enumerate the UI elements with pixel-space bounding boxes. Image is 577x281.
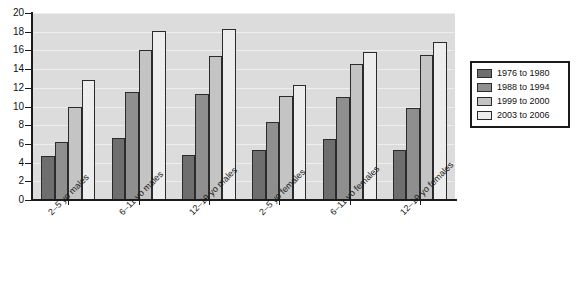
y-axis-tick	[25, 13, 32, 14]
bar	[182, 155, 196, 200]
y-axis-tick-label: 8	[0, 120, 24, 130]
bar	[406, 108, 420, 200]
y-axis-tick	[25, 107, 32, 108]
x-axis-tick	[279, 199, 280, 205]
y-axis-tick	[25, 69, 32, 70]
bars-layer	[33, 13, 455, 200]
legend: 1976 to 1980 1988 to 1994 1999 to 2000 2…	[470, 61, 570, 128]
legend-label-2003-to-2006: 2003 to 2006	[497, 111, 550, 120]
y-axis-tick-label: 6	[0, 139, 24, 149]
bar	[112, 138, 126, 200]
bar	[41, 156, 55, 200]
x-axis-tick	[420, 199, 421, 205]
y-axis-tick-label: 12	[0, 83, 24, 93]
y-axis-tick	[25, 144, 32, 145]
y-axis-tick	[25, 50, 32, 51]
bar	[336, 97, 350, 200]
y-axis-tick-label: 18	[0, 27, 24, 37]
legend-swatch-1976-to-1980	[477, 69, 492, 78]
y-axis-tick-label: 2	[0, 176, 24, 186]
y-axis-tick-label: 14	[0, 64, 24, 74]
bar	[125, 92, 139, 200]
y-axis-tick	[25, 32, 32, 33]
y-axis-tick-label: 4	[0, 158, 24, 168]
y-axis-tick	[25, 181, 32, 182]
bar	[393, 150, 407, 200]
bar	[195, 94, 209, 200]
y-axis-tick-label: 20	[0, 8, 24, 18]
y-axis-tick-label: 0	[0, 195, 24, 205]
x-axis-tick	[209, 199, 210, 205]
bar	[323, 139, 337, 200]
x-axis-tick	[350, 199, 351, 205]
legend-item[interactable]: 1999 to 2000	[477, 95, 564, 108]
legend-item[interactable]: 2003 to 2006	[477, 109, 564, 122]
legend-swatch-2003-to-2006	[477, 111, 492, 120]
legend-item[interactable]: 1976 to 1980	[477, 67, 564, 80]
legend-swatch-1988-to-1994	[477, 83, 492, 92]
legend-swatch-1999-to-2000	[477, 97, 492, 106]
x-axis-tick	[68, 199, 69, 205]
legend-item[interactable]: 1988 to 1994	[477, 81, 564, 94]
y-axis-tick-label: 10	[0, 102, 24, 112]
bar	[252, 150, 266, 200]
legend-label-1999-to-2000: 1999 to 2000	[497, 97, 550, 106]
bar-chart: 02468101214161820 2–5 yo males6–11 yo ma…	[0, 0, 577, 281]
y-axis-tick	[25, 163, 32, 164]
x-axis-line	[31, 199, 457, 201]
legend-label-1976-to-1980: 1976 to 1980	[497, 69, 550, 78]
y-axis-tick	[25, 200, 32, 201]
legend-label-1988-to-1994: 1988 to 1994	[497, 83, 550, 92]
y-axis-tick	[25, 88, 32, 89]
y-axis-labels: 02468101214161820	[0, 0, 24, 281]
y-axis-tick-label: 16	[0, 45, 24, 55]
x-axis-tick	[139, 199, 140, 205]
y-axis-tick	[25, 125, 32, 126]
